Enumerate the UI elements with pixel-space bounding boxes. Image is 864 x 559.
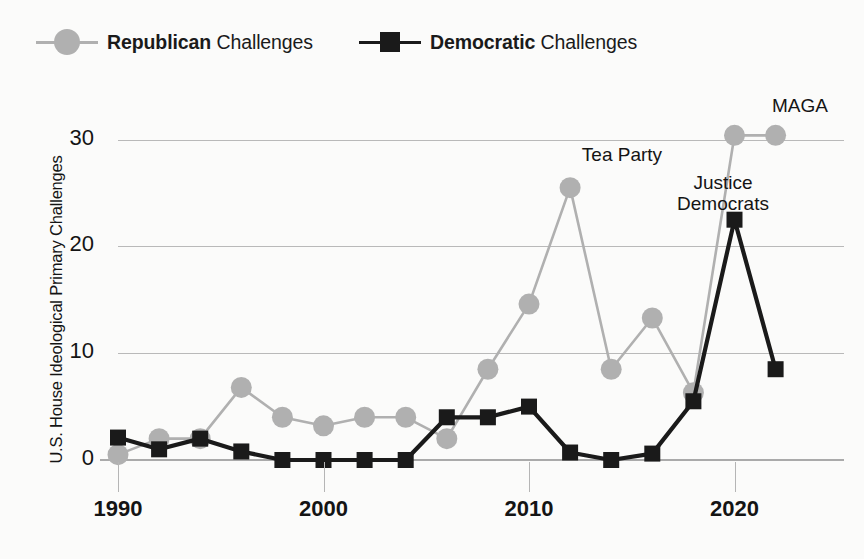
data-point-square-2012 <box>562 445 578 461</box>
x-tick-mark-2000 <box>324 462 325 492</box>
x-tick-label-1990: 1990 <box>78 496 158 522</box>
data-point-square-2014 <box>603 452 619 468</box>
data-point-circle-2008 <box>477 359 498 380</box>
data-point-circle-2002 <box>354 407 375 428</box>
data-point-circle-1998 <box>272 407 293 428</box>
data-point-circle-2020 <box>724 125 745 146</box>
data-point-square-2008 <box>480 409 496 425</box>
data-point-square-1990 <box>110 430 126 446</box>
chart-figure: Republican Challenges Democratic Challen… <box>0 0 864 559</box>
annotation-tea-party: Tea Party <box>542 144 702 165</box>
data-point-square-2004 <box>398 452 414 468</box>
plot-area: U.S. House Ideological Primary Challenge… <box>0 0 864 559</box>
data-point-circle-2016 <box>642 307 663 328</box>
x-tick-label-2010: 2010 <box>489 496 569 522</box>
x-tick-mark-2020 <box>735 462 736 492</box>
data-point-circle-2010 <box>519 294 540 315</box>
data-point-square-2018 <box>685 393 701 409</box>
data-point-circle-2012 <box>560 177 581 198</box>
data-point-circle-2014 <box>601 359 622 380</box>
x-tick-label-2000: 2000 <box>284 496 364 522</box>
data-point-square-1998 <box>274 452 290 468</box>
data-point-square-1992 <box>151 441 167 457</box>
x-tick-mark-2010 <box>529 462 530 492</box>
data-point-square-2016 <box>644 446 660 462</box>
data-point-circle-2006 <box>436 428 457 449</box>
data-point-square-2010 <box>521 399 537 415</box>
data-point-square-1994 <box>192 431 208 447</box>
data-point-circle-2004 <box>395 407 416 428</box>
data-point-square-2006 <box>439 409 455 425</box>
x-tick-label-2020: 2020 <box>695 496 775 522</box>
data-point-square-1996 <box>233 443 249 459</box>
data-point-circle-2000 <box>313 415 334 436</box>
data-point-square-2002 <box>357 452 373 468</box>
annotation-justice-democrats: Justice Democrats <box>643 172 803 215</box>
data-point-circle-2022 <box>765 125 786 146</box>
x-tick-mark-1990 <box>118 462 119 492</box>
data-point-circle-1996 <box>231 377 252 398</box>
data-point-square-2022 <box>768 361 784 377</box>
annotation-maga: MAGA <box>720 95 864 116</box>
